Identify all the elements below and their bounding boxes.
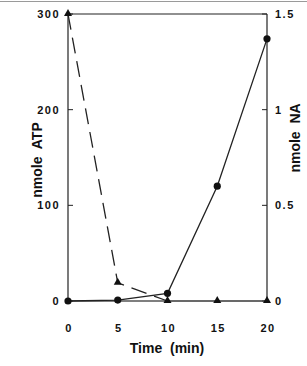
x-tick-label: 15 [211,322,226,334]
y-right-tick-label: 1.5 [275,8,295,20]
y-left-tick-label: 300 [37,8,60,20]
y-right-tick-label: 0.5 [275,199,295,211]
y-right-tick-label: 0 [275,295,283,307]
circle-marker [263,35,270,42]
x-tick-label: 10 [161,322,176,334]
circle-marker [164,290,171,297]
circle-marker [114,296,121,303]
x-tick-label: 20 [260,322,275,334]
na-solid-line [68,39,267,301]
chart-plot: 010020030000.511.505101520 Time (min) nm… [0,0,307,366]
triangle-marker [114,278,122,285]
x-axis-title: Time (min) [130,340,204,356]
y-left-tick-label: 0 [52,295,60,307]
y-left-tick-label: 200 [37,104,60,116]
circle-marker [64,297,71,304]
y-axis-left-title: nmole ATP [29,122,45,197]
axes-frame [68,14,267,301]
x-tick-label: 0 [65,322,73,334]
triangle-marker [263,296,271,303]
y-left-tick-label: 100 [37,199,60,211]
axis-ticks: 010020030000.511.505101520 [37,8,295,334]
circle-marker [214,183,221,190]
triangle-marker [213,296,221,303]
triangle-marker [64,9,72,16]
y-axis-right-title: nmole NA [287,103,303,172]
y-right-tick-label: 1 [275,104,283,116]
data-series [64,9,271,305]
atp-dashed-line [68,14,168,301]
x-tick-label: 5 [115,322,123,334]
